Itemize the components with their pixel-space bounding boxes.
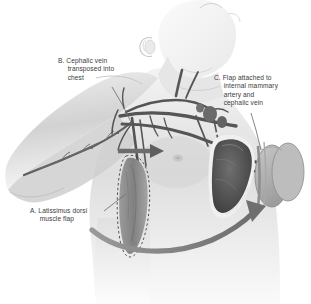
medical-illustration-figure: B. Cephalic vein transposed into chest C… [0, 0, 311, 304]
anatomy-artwork [0, 0, 311, 304]
breast-mound [140, 136, 212, 188]
callout-a-latissimus-dorsi: A. Latissimus dorsi muscle flap [30, 207, 87, 224]
callout-b-cephalic-vein: B. Cephalic vein transposed into chest [58, 57, 114, 82]
callout-c-flap-attachment: C. Flap attached to internal mammary art… [214, 74, 278, 108]
skin-paddle-discs [255, 142, 304, 208]
